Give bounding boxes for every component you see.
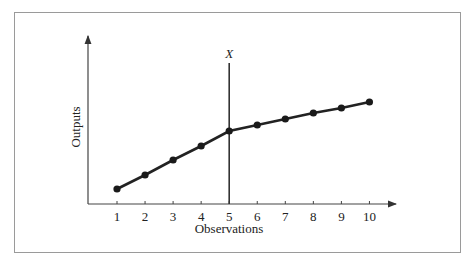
x-tick-label: 1 xyxy=(114,209,121,224)
x-tick-label: 3 xyxy=(170,209,177,224)
y-axis-title: Outputs xyxy=(68,106,83,147)
line-chart: 12345678910 X Observations Outputs xyxy=(0,0,476,265)
data-point xyxy=(113,185,120,192)
data-points xyxy=(113,98,373,192)
annotation-label: X xyxy=(224,46,234,61)
data-point xyxy=(170,156,177,163)
data-point xyxy=(254,121,261,128)
x-tick-label: 8 xyxy=(310,209,317,224)
x-tick-label: 10 xyxy=(363,209,376,224)
x-axis-title: Observations xyxy=(195,221,264,236)
data-point xyxy=(338,104,345,111)
data-point xyxy=(366,98,373,105)
data-point xyxy=(198,142,205,149)
data-point xyxy=(226,127,233,134)
data-point xyxy=(310,109,317,116)
data-point xyxy=(282,115,289,122)
x-tick-label: 9 xyxy=(338,209,345,224)
x-tick-label: 7 xyxy=(282,209,289,224)
x-tick-label: 2 xyxy=(142,209,149,224)
series-line xyxy=(117,102,369,189)
data-point xyxy=(141,171,148,178)
